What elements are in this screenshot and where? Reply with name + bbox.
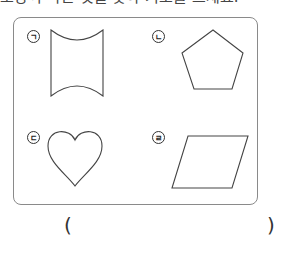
answer-open-paren: ( [64,213,72,237]
question-title-clipped: 모양이 다른 것을 찾아 기호를 쓰세요. [0,0,288,4]
option-marker-1: ㄱ [27,30,40,43]
pentagon-icon [180,28,246,92]
option-marker-2: ㄴ [152,30,165,43]
answer-field[interactable] [80,214,260,238]
answer-close-paren: ) [267,213,275,237]
option-marker-3: ㄷ [27,131,40,144]
parallelogram-icon [170,134,250,190]
heart-icon [44,126,106,188]
question-title: 모양이 다른 것을 찾아 기호를 쓰세요. [0,0,288,4]
concave-rectangle-icon [48,28,106,98]
option-marker-4: ㄹ [152,131,165,144]
